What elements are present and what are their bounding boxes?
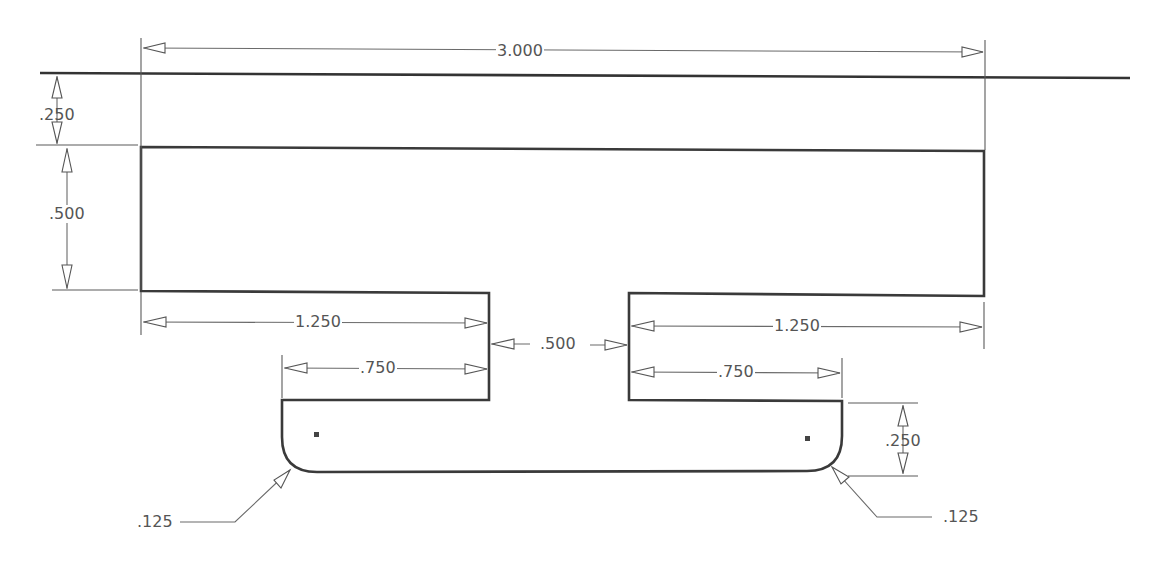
dim-label-top-offset: .250: [38, 106, 76, 124]
arrowhead-icon: [144, 43, 165, 53]
arrowhead-icon: [52, 77, 62, 98]
fillet-center-mark-left: [314, 432, 319, 437]
leader-line-fillet-right: [832, 467, 932, 517]
arrowhead-icon: [898, 406, 908, 426]
part-outline: [141, 147, 984, 472]
arrowhead-icon: [285, 363, 307, 373]
arrowhead-icon: [52, 122, 62, 143]
arrowhead-icon: [62, 149, 72, 172]
technical-drawing: [0, 0, 1172, 562]
arrowhead-icon: [632, 367, 654, 377]
dim-label-left-shoulder: 1.250: [294, 313, 342, 331]
dim-label-left-fillet: .125: [136, 513, 174, 531]
arrowhead-icon: [465, 364, 487, 374]
dim-label-right-shoulder: 1.250: [773, 317, 821, 335]
dim-label-right-leg: .750: [717, 363, 755, 381]
arrowhead-icon: [144, 317, 166, 327]
arrowhead-icon: [492, 339, 514, 349]
arrowhead-icon: [632, 321, 654, 331]
fillet-center-mark-right: [805, 436, 810, 441]
arrowhead-icon: [465, 318, 487, 328]
datum-line: [40, 73, 1130, 78]
arrowhead-icon: [62, 265, 72, 288]
dim-label-slot-width: .500: [539, 335, 577, 353]
dim-label-overall-width: 3.000: [496, 42, 544, 60]
arrowhead-icon: [962, 47, 983, 57]
dim-label-block-height: .500: [48, 205, 86, 223]
arrowhead-icon: [274, 470, 290, 488]
dim-label-right-fillet: .125: [942, 508, 980, 526]
dimension-line-3000: [143, 48, 983, 52]
leader-line-fillet-left: [180, 470, 290, 522]
arrowhead-icon: [898, 453, 908, 473]
arrowhead-icon: [605, 340, 627, 350]
dim-label-tab-height: .250: [884, 432, 922, 450]
dim-label-left-leg: .750: [359, 359, 397, 377]
arrowhead-icon: [960, 322, 982, 332]
arrowhead-icon: [818, 368, 840, 378]
arrowhead-icon: [832, 467, 849, 484]
